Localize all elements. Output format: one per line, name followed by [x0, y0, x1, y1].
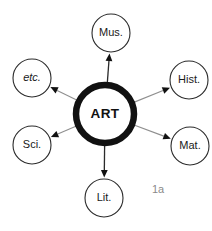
figure-caption: 1a [152, 183, 165, 195]
node-mat[interactable]: Mat. [171, 127, 209, 165]
node-lit[interactable]: Lit. [85, 179, 123, 217]
node-hist[interactable]: Hist. [170, 61, 208, 99]
figure-container: Mus.Hist.Mat.Lit.Sci.etc. ART 1a [0, 0, 212, 231]
edge-etc-line [57, 90, 77, 100]
node-mus-label: Mus. [99, 26, 123, 38]
node-hist-label: Hist. [178, 73, 200, 85]
center-node-label: ART [91, 106, 120, 121]
node-mat-label: Mat. [179, 139, 200, 151]
edge-hist-line [134, 91, 163, 103]
edge-lit-arrowhead [101, 170, 108, 178]
node-mus[interactable]: Mus. [92, 14, 130, 52]
edge-sci-line [58, 126, 77, 134]
node-etc[interactable]: etc. [13, 59, 51, 97]
node-sci-label: Sci. [23, 138, 41, 150]
node-lit-label: Lit. [97, 191, 112, 203]
node-sci[interactable]: Sci. [13, 126, 51, 164]
edge-mat-arrowhead [163, 133, 171, 139]
edge-mat-line [134, 125, 164, 136]
center-node: ART [76, 85, 134, 143]
edge-mus-line [107, 61, 109, 83]
edge-mus-arrowhead [106, 53, 113, 61]
radial-diagram: Mus.Hist.Mat.Lit.Sci.etc. ART 1a [0, 0, 212, 231]
node-etc-label: etc. [23, 71, 41, 83]
